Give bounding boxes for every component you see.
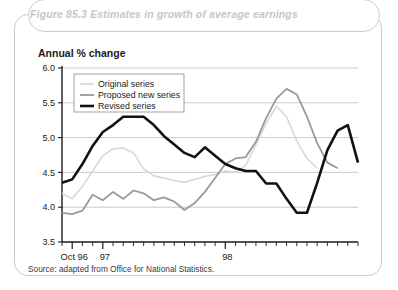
chart-plot-area: 3.54.04.55.05.56.0Oct 969798Original ser… [0, 0, 398, 290]
legend-label: Revised series [98, 101, 156, 111]
y-axis-title: Annual % change [38, 47, 126, 59]
figure-card: Figure 85.3 Estimates in growth of avera… [0, 0, 398, 290]
x-tick-label: 98 [222, 252, 232, 262]
y-tick-label: 5.5 [42, 98, 55, 108]
x-tick-label: 97 [100, 252, 110, 262]
series-line [62, 106, 317, 199]
y-tick-label: 4.5 [42, 168, 55, 178]
legend-label: Proposed new series [98, 90, 181, 100]
source-note: Source: adapted from Office for National… [28, 264, 214, 274]
y-tick-label: 3.5 [42, 237, 55, 247]
figure-title: Figure 85.3 Estimates in growth of avera… [30, 8, 298, 20]
y-tick-label: 6.0 [42, 63, 55, 73]
x-tick-label: Oct 96 [61, 252, 88, 262]
y-tick-label: 4.0 [42, 202, 55, 212]
legend-label: Original series [98, 79, 155, 89]
y-tick-label: 5.0 [42, 133, 55, 143]
line-chart: 3.54.04.55.05.56.0Oct 969798Original ser… [0, 0, 398, 290]
